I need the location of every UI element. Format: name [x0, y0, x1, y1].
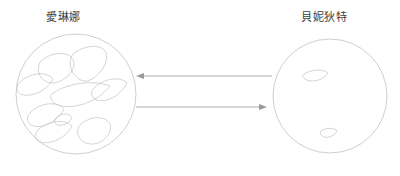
- diagram-svg: [0, 0, 400, 176]
- arrow-left-to-right-head: [259, 104, 267, 110]
- right-cell-outline: [273, 39, 387, 153]
- right-organelle-2: [320, 128, 337, 137]
- arrow-right-to-left-head: [136, 73, 144, 79]
- right-cell-group: [273, 39, 387, 153]
- right-organelle-1: [303, 70, 328, 81]
- diagram-canvas: 愛琳娜 貝妮狄特: [0, 0, 400, 176]
- left-organelle-2: [70, 46, 106, 81]
- left-organelle-5: [92, 79, 128, 101]
- left-organelle-4: [51, 83, 110, 107]
- left-organelle-8: [78, 118, 111, 144]
- left-organelle-7: [35, 121, 72, 142]
- left-organelle-6: [28, 104, 65, 127]
- left-organelle-1: [38, 53, 74, 82]
- left-cell-group: [16, 34, 136, 154]
- flow-arrows: [136, 73, 272, 110]
- left-organelle-3: [17, 74, 53, 95]
